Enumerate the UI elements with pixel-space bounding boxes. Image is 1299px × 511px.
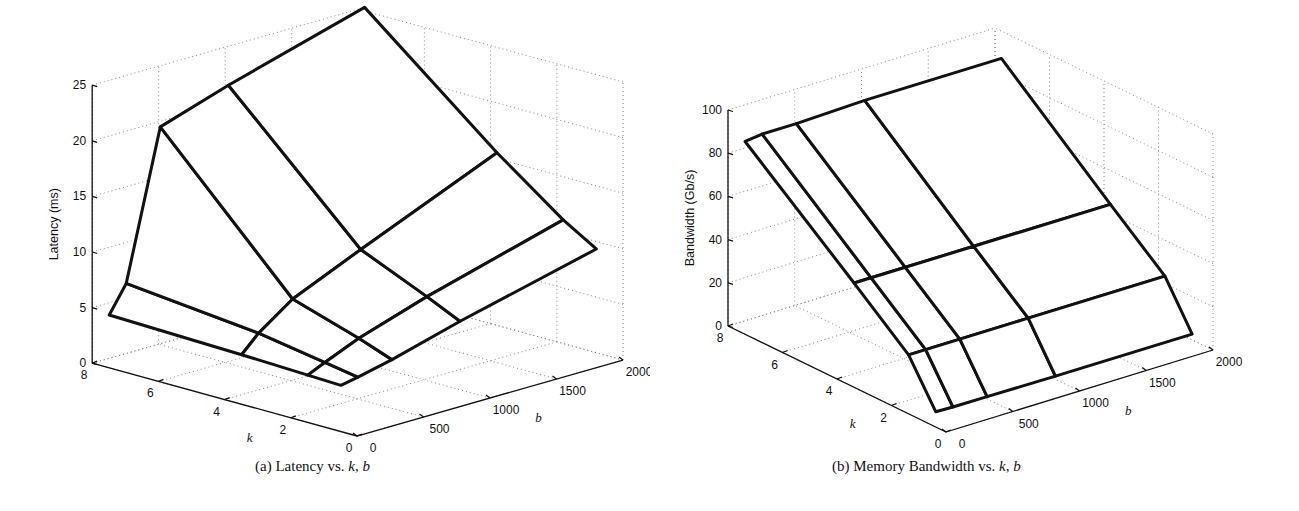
caption-latency: (a) Latency vs. k, b [255, 458, 370, 475]
b-tick [1209, 347, 1213, 350]
bandwidth-surface-chart: 020406080100024680500100015002000Bandwid… [650, 0, 1299, 455]
b-tick-label: 2000 [1216, 355, 1243, 369]
k-tick [892, 404, 897, 406]
k-tick-label: 8 [81, 368, 88, 382]
b-tick [1076, 388, 1080, 391]
caption-var-k: k [348, 458, 355, 474]
k-tick [946, 430, 951, 432]
z-axis-label: Bandwidth (Gb/s) [683, 170, 697, 267]
caption-text: (a) Latency vs. [255, 458, 348, 474]
k-tick [357, 434, 362, 436]
z-tick [92, 141, 97, 143]
b-tick-label: 2000 [626, 365, 650, 379]
k-tick-label: 0 [935, 437, 942, 451]
caption-var-b: b [362, 458, 370, 474]
b-tick [486, 395, 490, 398]
b-tick-label: 1500 [1149, 376, 1176, 390]
k-tick [291, 416, 296, 418]
z-tick-label: 10 [73, 245, 87, 259]
z-tick [92, 308, 97, 310]
z-tick [92, 85, 97, 87]
b-tick [553, 376, 557, 379]
z-tick-label: 40 [709, 233, 723, 247]
z-tick [92, 252, 97, 254]
b-tick-label: 1000 [1082, 396, 1109, 410]
b-axis-label: b [1125, 403, 1132, 418]
caption-text: (b) Memory Bandwidth vs. [832, 458, 999, 474]
b-axis-label: b [535, 410, 542, 425]
k-axis-label: k [247, 430, 253, 445]
z-tick-label: 15 [73, 189, 87, 203]
b-tick-label: 1500 [559, 384, 586, 398]
k-tick-label: 4 [826, 384, 833, 398]
k-tick-label: 8 [717, 331, 724, 345]
b-tick [1142, 368, 1146, 371]
b-tick-label: 0 [959, 437, 966, 451]
z-tick-label: 100 [702, 103, 722, 117]
k-tick-label: 4 [213, 405, 220, 419]
k-tick-label: 0 [346, 441, 353, 455]
z-tick [728, 283, 733, 285]
b-tick [420, 414, 424, 417]
b-tick-label: 0 [370, 441, 377, 455]
k-tick [728, 324, 733, 326]
z-tick [728, 196, 733, 198]
k-tick [158, 379, 163, 381]
z-tick-label: 20 [709, 276, 723, 290]
k-tick-label: 2 [880, 411, 887, 425]
z-tick-label: 20 [73, 134, 87, 148]
latency-surface-chart: 0510152025024680500100015002000Latency (… [0, 0, 650, 455]
caption-var-b: b [1013, 458, 1021, 474]
k-tick [837, 377, 842, 379]
b-tick-label: 500 [429, 422, 449, 436]
caption-var-k: k [999, 458, 1006, 474]
panel-latency: 0510152025024680500100015002000Latency (… [0, 0, 650, 511]
z-axis-label: Latency (ms) [47, 188, 61, 260]
b-tick-label: 500 [1019, 417, 1039, 431]
panel-bandwidth: 020406080100024680500100015002000Bandwid… [650, 0, 1299, 511]
k-tick-label: 2 [279, 423, 286, 437]
k-tick-label: 6 [147, 386, 154, 400]
b-tick-label: 1000 [493, 403, 520, 417]
surface-mesh [109, 7, 596, 385]
z-tick [92, 196, 97, 198]
k-tick [92, 361, 97, 363]
z-tick-label: 5 [80, 301, 87, 315]
k-tick [225, 398, 230, 400]
caption-bandwidth: (b) Memory Bandwidth vs. k, b [832, 458, 1021, 475]
z-tick-label: 25 [73, 78, 87, 92]
b-tick [1009, 409, 1013, 412]
surface-mesh [745, 58, 1192, 411]
z-tick-label: 80 [709, 146, 723, 160]
k-axis-label: k [850, 416, 856, 431]
z-tick [728, 110, 733, 112]
z-tick [728, 240, 733, 242]
k-tick-label: 6 [771, 358, 778, 372]
z-tick-label: 60 [709, 189, 723, 203]
b-tick [619, 357, 623, 360]
z-tick [728, 153, 733, 155]
k-tick [783, 351, 788, 353]
